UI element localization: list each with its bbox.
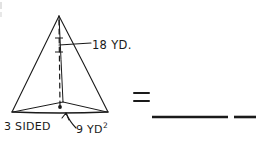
height-label: 18 YD. [92, 38, 132, 52]
base-center-point [58, 105, 62, 109]
worksheet-page: 18 YD. 3 SIDED 9 YD2 [0, 0, 263, 141]
pyramid-base-front-edge [12, 112, 108, 113]
pyramid-base-edge-back-left [13, 102, 63, 112]
base-area-arrowhead [62, 113, 69, 120]
equals-sign [134, 93, 149, 101]
pyramid-edge-right [59, 16, 108, 112]
pyramid-edge-left [12, 16, 59, 112]
base-area-label: 9 YD2 [76, 121, 108, 136]
base-area-exponent: 2 [103, 121, 108, 130]
pyramid-base-edge-back-right [63, 102, 107, 112]
height-leader-line [59, 43, 91, 45]
base-area-value: 9 YD [76, 123, 103, 136]
base-sides-label: 3 SIDED [4, 120, 51, 133]
